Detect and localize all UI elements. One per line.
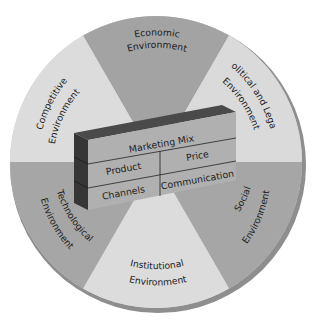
marketing-environment-diagram: Economic Environment Political and Legal…	[0, 0, 312, 325]
block-side-face	[74, 133, 88, 210]
